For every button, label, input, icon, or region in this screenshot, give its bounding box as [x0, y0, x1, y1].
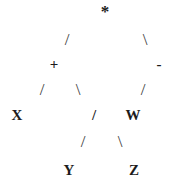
expression-tree-diagram: * / \ + - / \ / X / W / \ Y Z [0, 0, 170, 189]
tree-edge-plus-to-x: / [40, 81, 45, 98]
tree-edge-divide-to-y: / [81, 133, 86, 150]
tree-node-root-multiply: * [101, 3, 110, 20]
tree-edge-root-to-minus: \ [143, 31, 148, 48]
tree-node-x: X [11, 108, 22, 123]
tree-node-minus: - [157, 57, 162, 72]
tree-edge-plus-to-divide: \ [76, 81, 81, 98]
tree-node-z: Z [129, 163, 139, 178]
tree-edge-root-to-plus: / [65, 31, 70, 48]
tree-node-divide: / [92, 108, 96, 123]
tree-node-y: Y [63, 163, 74, 178]
tree-node-w: W [125, 108, 140, 123]
tree-node-plus: + [50, 57, 59, 72]
tree-edge-divide-to-z: \ [118, 133, 123, 150]
tree-edge-minus-to-w: / [141, 81, 146, 98]
